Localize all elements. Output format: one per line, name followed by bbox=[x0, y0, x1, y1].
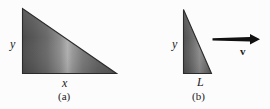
label-y-panel-a: y bbox=[10, 38, 15, 50]
label-x-panel-a: x bbox=[62, 77, 67, 89]
figure-panel-b: y L v (b) bbox=[135, 0, 270, 109]
figure-container: y x (a) bbox=[0, 0, 270, 109]
triangle-shape-a bbox=[21, 7, 118, 75]
arrow-right-icon bbox=[212, 33, 261, 46]
caption-panel-b: (b) bbox=[192, 91, 205, 102]
label-y-panel-b: y bbox=[172, 38, 177, 50]
label-L-panel-b: L bbox=[197, 76, 204, 88]
caption-panel-a: (a) bbox=[58, 91, 70, 102]
label-velocity-vector: v bbox=[240, 46, 246, 57]
figure-panel-a: y x (a) bbox=[0, 0, 135, 109]
triangle-shape-b bbox=[182, 8, 213, 75]
